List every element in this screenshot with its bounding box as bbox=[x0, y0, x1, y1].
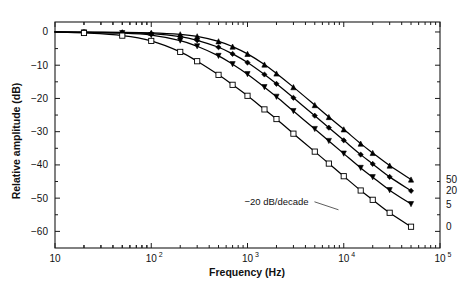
marker-square-open bbox=[178, 49, 183, 54]
marker-square-open bbox=[326, 161, 331, 166]
marker-triangle-down bbox=[195, 44, 200, 49]
data-curves bbox=[55, 32, 411, 227]
marker-square-open bbox=[120, 33, 125, 38]
series-labels: 502050 bbox=[446, 174, 458, 232]
marker-square-open bbox=[230, 82, 235, 87]
series-label: 50 bbox=[446, 174, 458, 185]
marker-square-open bbox=[341, 174, 346, 179]
x-axis-title: Frequency (Hz) bbox=[209, 266, 285, 278]
marker-square-open bbox=[245, 93, 250, 98]
marker-triangle-down bbox=[216, 53, 221, 58]
y-tick-label: −10 bbox=[31, 60, 48, 71]
figure-container: 0−10−20−30−40−50−60 10102103104105 50205… bbox=[0, 0, 470, 284]
marker-square-open bbox=[216, 72, 221, 77]
x-tick-label: 10 bbox=[434, 253, 446, 264]
marker-diamond bbox=[230, 51, 235, 56]
marker-diamond bbox=[216, 45, 221, 50]
y-tick-label: −50 bbox=[31, 193, 48, 204]
marker-triangle-down bbox=[408, 202, 413, 207]
x-tick-label: 10 bbox=[338, 253, 350, 264]
series-curve bbox=[55, 32, 411, 227]
marker-square-open bbox=[81, 30, 86, 35]
slope-annotation: −20 dB/decade bbox=[244, 196, 308, 207]
marker-square-open bbox=[262, 107, 267, 112]
y-tick-label: −30 bbox=[31, 126, 48, 137]
marker-square-open bbox=[387, 210, 392, 215]
series-label: 0 bbox=[446, 221, 452, 232]
marker-square-open bbox=[370, 197, 375, 202]
y-tick-label: −40 bbox=[31, 159, 48, 170]
series-curve bbox=[55, 32, 411, 204]
x-tick-exponent: 3 bbox=[255, 251, 259, 258]
marker-square-open bbox=[358, 188, 363, 193]
y-tick-label: −20 bbox=[31, 93, 48, 104]
marker-square-open bbox=[195, 59, 200, 64]
y-tick-label: 0 bbox=[42, 26, 48, 37]
chart-annotations: −20 dB/decade bbox=[244, 196, 338, 210]
x-axis-ticks: 10102103104105 bbox=[49, 22, 451, 264]
annotation-leader bbox=[314, 202, 338, 210]
x-tick-exponent: 5 bbox=[448, 251, 452, 258]
y-axis-title: Relative amplitude (dB) bbox=[10, 83, 22, 200]
marker-triangle-up bbox=[245, 51, 250, 56]
marker-triangle-up bbox=[230, 44, 235, 49]
series-label: 5 bbox=[446, 199, 452, 210]
marker-square-open bbox=[149, 38, 154, 43]
y-axis-ticks: 0−10−20−30−40−50−60 bbox=[31, 26, 440, 236]
marker-square-open bbox=[274, 116, 279, 121]
x-tick-label: 10 bbox=[49, 253, 61, 264]
marker-square-open bbox=[408, 224, 413, 229]
x-tick-label: 10 bbox=[242, 253, 254, 264]
y-tick-label: −60 bbox=[31, 226, 48, 237]
x-tick-label: 10 bbox=[146, 253, 158, 264]
series-label: 20 bbox=[446, 185, 458, 196]
bode-magnitude-chart: 0−10−20−30−40−50−60 10102103104105 50205… bbox=[0, 0, 470, 284]
x-tick-exponent: 4 bbox=[351, 251, 355, 258]
marker-square-open bbox=[312, 149, 317, 154]
x-tick-exponent: 2 bbox=[159, 251, 163, 258]
marker-square-open bbox=[291, 131, 296, 136]
